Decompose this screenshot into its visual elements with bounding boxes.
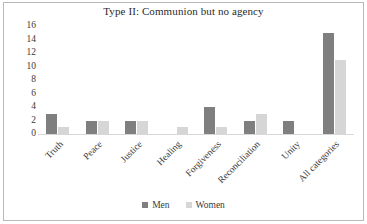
y-axis-tick: 8: [14, 75, 36, 85]
chart-title: Type II: Communion but no agency: [0, 5, 367, 17]
bar-group: [38, 26, 78, 134]
y-axis-tick: 14: [14, 35, 36, 45]
bar-group: [315, 26, 355, 134]
chart-container: Type II: Communion but no agency 1614121…: [0, 0, 367, 224]
bar-women: [335, 60, 346, 134]
plot-area: [38, 26, 354, 135]
bar-women: [177, 127, 188, 134]
y-axis-tick: 6: [14, 89, 36, 99]
bar-women: [137, 121, 148, 135]
y-axis: 1614121086420: [14, 26, 36, 138]
bar-men: [86, 121, 97, 135]
bar-groups: [38, 26, 354, 134]
y-axis-tick: 2: [14, 116, 36, 126]
y-axis-tick: 4: [14, 102, 36, 112]
bar-group: [117, 26, 157, 134]
x-axis-label: Healing: [155, 139, 183, 167]
legend-item-men[interactable]: Men: [142, 200, 169, 210]
bar-men: [204, 107, 215, 134]
bar-group: [157, 26, 197, 134]
bar-men: [323, 33, 334, 134]
bar-women: [98, 121, 109, 135]
bar-group: [196, 26, 236, 134]
bar-men: [244, 121, 255, 135]
x-axis-label: All categories: [297, 139, 342, 184]
x-axis-label: Unity: [279, 139, 301, 161]
y-axis-tick: 0: [14, 129, 36, 139]
x-axis-labels: TruthPeaceJusticeHealingForgivenessRecon…: [38, 139, 354, 191]
x-axis-label: Peace: [82, 139, 105, 162]
bar-group: [275, 26, 315, 134]
y-axis-tick: 16: [14, 21, 36, 31]
bar-men: [283, 121, 294, 135]
bar-women: [216, 127, 227, 134]
y-axis-tick: 12: [14, 48, 36, 58]
y-axis-tick: 10: [14, 62, 36, 72]
legend-label: Women: [196, 200, 225, 210]
x-axis-label: Truth: [43, 139, 65, 161]
legend-swatch-icon: [186, 202, 192, 208]
legend-swatch-icon: [142, 202, 148, 208]
bar-group: [236, 26, 276, 134]
legend-item-women[interactable]: Women: [186, 200, 225, 210]
x-axis-label: Justice: [118, 139, 143, 164]
bar-men: [125, 121, 136, 135]
bar-men: [46, 114, 57, 134]
bar-group: [78, 26, 118, 134]
x-axis-label: Forgiveness: [183, 139, 222, 178]
bar-women: [58, 127, 69, 134]
legend-label: Men: [152, 200, 169, 210]
plot-wrapper: 1614121086420: [14, 26, 354, 138]
chart-legend: MenWomen: [0, 200, 367, 210]
bar-women: [256, 114, 267, 134]
